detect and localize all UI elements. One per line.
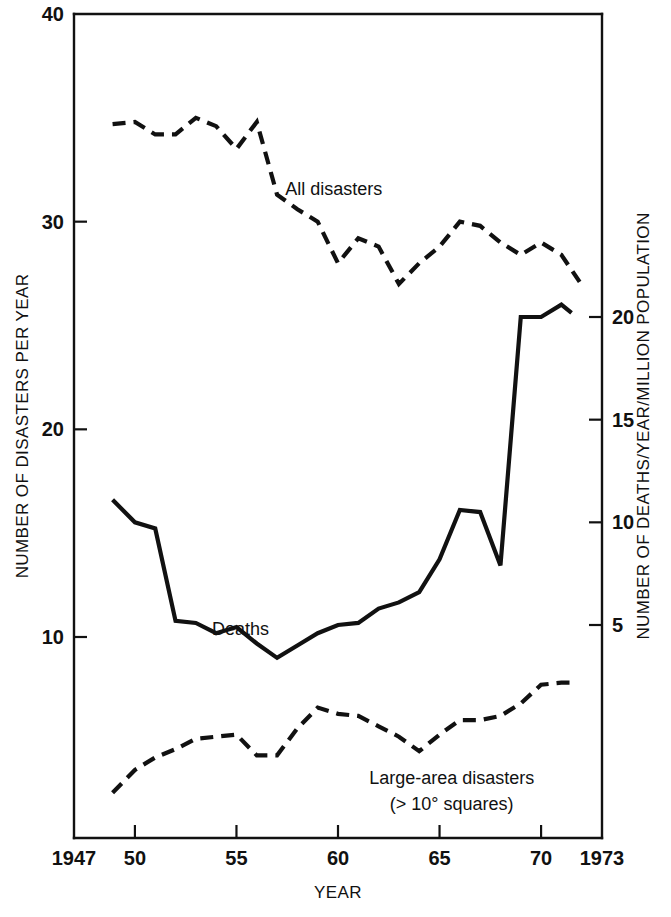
right-tick-label: 20: [612, 306, 634, 328]
bottom-tick-label: 1973: [580, 847, 625, 869]
right-tick-label: 5: [612, 614, 623, 636]
left-tick-label: 10: [42, 626, 64, 648]
disasters-chart-figure: 10203040 5101520 194750556065701973 All …: [0, 0, 671, 917]
right-axis-title: NUMBER OF DEATHS/YEAR/MILLION POPULATION: [634, 212, 653, 639]
bottom-tick-label: 65: [428, 847, 450, 869]
left-tick-label: 30: [42, 211, 64, 233]
left-axis-ticks: 10203040: [42, 3, 87, 648]
bottom-tick-label: 1947: [52, 847, 97, 869]
large-area-label-line1: Large-area disasters: [369, 768, 534, 788]
right-tick-label: 10: [612, 511, 634, 533]
x-axis-title: YEAR: [314, 883, 362, 902]
large-area-label-line2: (> 10° squares): [390, 794, 514, 814]
series-line-all-disasters: [113, 118, 580, 284]
left-tick-label: 20: [42, 418, 64, 440]
deaths-label: Deaths: [212, 619, 269, 639]
bottom-tick-label: 50: [124, 847, 146, 869]
bottom-tick-label: 70: [530, 847, 552, 869]
series-group: [113, 118, 580, 793]
right-axis-ticks: 5101520: [589, 306, 634, 636]
bottom-tick-label: 60: [327, 847, 349, 869]
left-axis-title: NUMBER OF DISASTERS PER YEAR: [13, 274, 32, 579]
all-disasters-label: All disasters: [285, 179, 382, 199]
chart-canvas: 10203040 5101520 194750556065701973 All …: [0, 0, 671, 917]
right-tick-label: 15: [612, 409, 634, 431]
bottom-tick-label: 55: [225, 847, 247, 869]
left-tick-label: 40: [42, 3, 64, 25]
bottom-axis-ticks: 194750556065701973: [52, 825, 625, 869]
series-line-deaths: [113, 305, 572, 658]
